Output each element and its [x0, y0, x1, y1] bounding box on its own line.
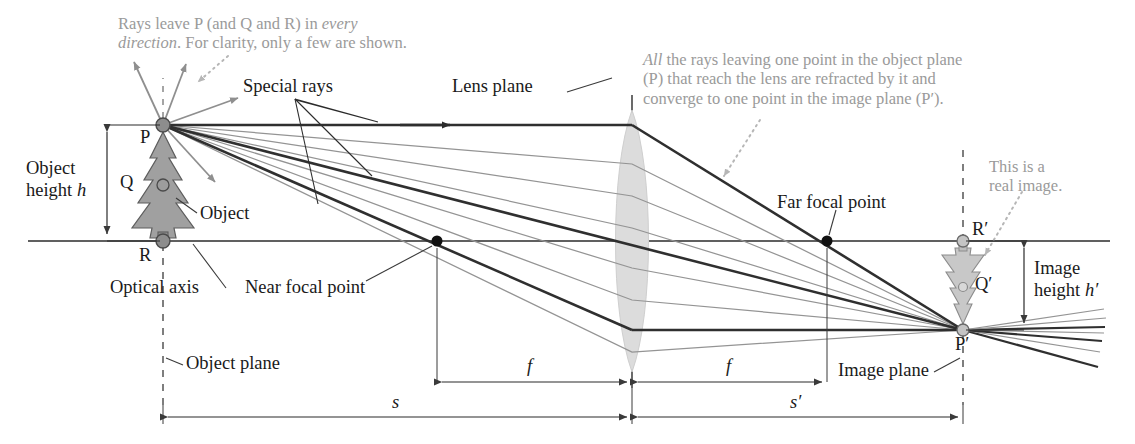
- real-image-line2: real image.: [989, 176, 1062, 195]
- object-height-symbol: h: [77, 180, 86, 200]
- image-height-line2-plain: height: [1034, 280, 1085, 300]
- label-image-height: Image height h′: [1034, 258, 1098, 302]
- all-rays-pointer: [724, 120, 760, 176]
- label-image-distance: s′: [790, 392, 801, 414]
- label-point-q: Q: [120, 172, 133, 194]
- caption-line1-plain: Rays leave P (and Q and R) in: [118, 14, 322, 33]
- label-object: Object: [200, 203, 249, 225]
- label-object-height: Object height h: [26, 158, 86, 202]
- diagram-canvas: Rays leave P (and Q and R) in every dire…: [0, 0, 1135, 444]
- caption-real-image: This is a real image.: [989, 157, 1062, 196]
- label-point-q-prime: Q′: [975, 274, 992, 296]
- label-focal-length-right: f: [726, 356, 731, 378]
- special-rays-bundle: [163, 125, 963, 330]
- caption-rays-every-direction: Rays leave P (and Q and R) in every dire…: [118, 14, 407, 53]
- object-height-line1: Object: [26, 158, 86, 180]
- all-rays-line3: converge to one point in the image plane…: [643, 89, 962, 108]
- label-point-p-prime: P′: [955, 334, 969, 356]
- all-rays-line1-italic: All: [643, 50, 662, 69]
- label-near-focal-point: Near focal point: [245, 277, 365, 299]
- image-plane-leader: [934, 358, 960, 372]
- every-direction-pointer: [198, 56, 228, 82]
- ordinary-rays-bundle: [163, 125, 963, 352]
- label-object-plane: Object plane: [186, 353, 280, 375]
- object-plane-leader: [166, 358, 183, 365]
- real-image-line1: This is a: [989, 157, 1062, 176]
- lens-plane-leader: [567, 78, 612, 92]
- real-image-pointer: [985, 192, 1022, 255]
- image-height-symbol: h′: [1085, 280, 1098, 300]
- ray-diagram-svg: [0, 0, 1135, 444]
- label-special-rays: Special rays: [243, 76, 333, 98]
- all-rays-line2: (P) that reach the lens are refracted by…: [643, 69, 962, 88]
- label-lens-plane: Lens plane: [452, 76, 533, 98]
- rays-past-image: [963, 309, 1106, 367]
- label-optical-axis: Optical axis: [110, 277, 199, 299]
- label-point-r: R: [139, 245, 151, 267]
- every-direction-arrows: [134, 62, 238, 182]
- near-focal-leader: [366, 246, 432, 281]
- label-focal-length-left: f: [527, 356, 532, 378]
- caption-line1-italic: every: [322, 14, 358, 33]
- object-height-line2-plain: height: [26, 180, 77, 200]
- caption-line2-plain: . For clarity, only a few are shown.: [177, 33, 407, 52]
- all-rays-line1-plain: the rays leaving one point in the object…: [662, 50, 962, 69]
- caption-all-rays-converge: All the rays leaving one point in the ob…: [643, 50, 962, 108]
- label-image-plane: Image plane: [838, 360, 929, 382]
- label-point-p: P: [140, 127, 150, 149]
- label-object-distance: s: [392, 392, 399, 414]
- label-far-focal-point: Far focal point: [777, 192, 886, 214]
- image-height-line1: Image: [1034, 258, 1098, 280]
- caption-line2-italic: direction: [118, 33, 177, 52]
- label-point-r-prime: R′: [972, 219, 988, 241]
